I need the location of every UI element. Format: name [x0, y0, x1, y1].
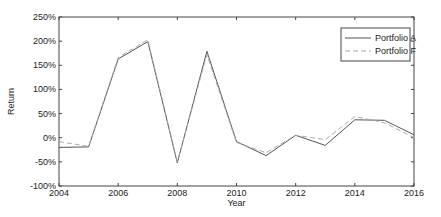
- y-tick-label: 200%: [33, 36, 56, 46]
- legend-label-portfolio-a: Portfolio A: [375, 33, 416, 43]
- legend-label-portfolio-f: Portfolio F: [375, 46, 417, 56]
- x-tick-label: 2008: [167, 188, 187, 198]
- y-axis-label: Return: [6, 88, 16, 115]
- x-tick-label: 2014: [345, 188, 365, 198]
- x-tick-label: 2006: [108, 188, 128, 198]
- y-tick-label: 0%: [43, 133, 56, 143]
- y-tick-label: -50%: [35, 157, 56, 167]
- y-tick-label: -100%: [30, 181, 56, 191]
- x-tick-label: 2012: [286, 188, 306, 198]
- chart: 2004200620082010201220142016 -100%-50%0%…: [0, 0, 441, 217]
- legend: Portfolio A Portfolio F: [341, 28, 417, 61]
- x-tick-label: 2010: [226, 188, 246, 198]
- x-axis-label: Year: [227, 198, 245, 208]
- x-tick-label: 2016: [404, 188, 424, 198]
- y-tick-label: 50%: [38, 109, 56, 119]
- y-tick-label: 150%: [33, 60, 56, 70]
- y-tick-label: 250%: [33, 12, 56, 22]
- y-tick-label: 100%: [33, 84, 56, 94]
